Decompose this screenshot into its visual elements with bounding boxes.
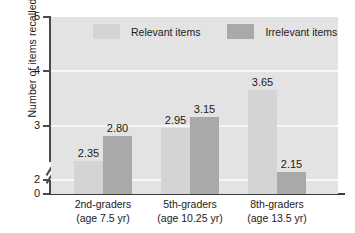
bar-value-label: 2.95 (160, 114, 192, 126)
x-category-label-3: 8th-graders(age 13.5 yr) (222, 198, 332, 225)
bar-8th-graders-relevant-items (248, 90, 277, 194)
legend-swatch-relevant (93, 24, 120, 39)
category-age: (age 13.5 yr) (222, 212, 332, 226)
gridline-4 (51, 70, 338, 72)
legend-swatch-irrelevant (227, 24, 254, 39)
bar-chart-figure: Number of items recalled 0 2 3 4 5 Relev… (0, 0, 355, 233)
y-tick-label-3: 3 (20, 119, 40, 131)
y-tick-label-4: 4 (20, 64, 40, 76)
category-name: 2nd-graders (75, 198, 132, 210)
bar-8th-graders-irrelevant-items (277, 172, 306, 194)
y-tick-label-0: 0 (20, 187, 40, 199)
bar-value-label: 2.35 (73, 147, 105, 159)
legend-item-irrelevant: Irrelevant items (227, 24, 337, 39)
legend-label-relevant: Relevant items (131, 26, 200, 38)
bar-5th-graders-irrelevant-items (190, 117, 219, 194)
y-tick-label-2: 2 (20, 173, 40, 185)
bar-value-label: 3.65 (247, 76, 279, 88)
bar-5th-graders-relevant-items (161, 128, 190, 194)
legend-item-relevant: Relevant items (93, 24, 200, 39)
bar-2nd-graders-irrelevant-items (103, 136, 132, 194)
bar-2nd-graders-relevant-items (74, 161, 103, 194)
legend-label-irrelevant: Irrelevant items (265, 26, 337, 38)
category-name: 5th-graders (163, 198, 217, 210)
y-tick-label-5: 5 (20, 10, 40, 22)
category-name: 8th-graders (250, 198, 304, 210)
bar-value-label: 2.80 (102, 122, 134, 134)
bar-value-label: 3.15 (189, 103, 221, 115)
legend: Relevant items Irrelevant items (93, 24, 337, 39)
bar-value-label: 2.15 (276, 158, 308, 170)
